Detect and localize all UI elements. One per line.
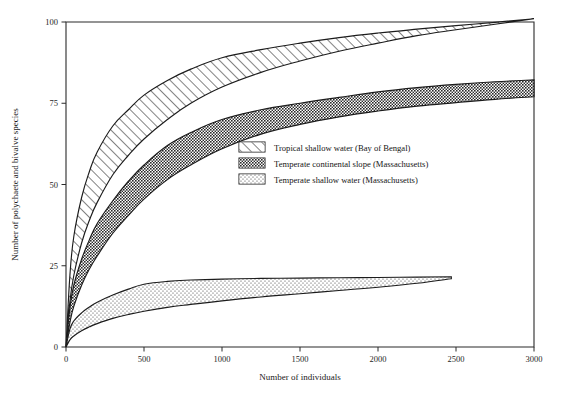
x-tick-label: 3000 bbox=[526, 354, 543, 364]
legend-swatch-fill bbox=[240, 159, 265, 168]
y-axis-title: Number of polychaete and bivalve species bbox=[10, 108, 20, 261]
y-tick-label: 25 bbox=[50, 261, 59, 271]
band-area bbox=[66, 277, 451, 347]
x-tick-label: 1500 bbox=[292, 354, 309, 364]
x-axis-ticks: 050010001500200025003000 bbox=[64, 347, 543, 364]
band-series-3 bbox=[66, 277, 451, 347]
legend-item-1: Tropical shallow water (Bay of Bengal) bbox=[239, 142, 411, 153]
legend-label: Temperate continental slope (Massachuset… bbox=[274, 159, 428, 169]
legend-item-3: Temperate shallow water (Massachusetts) bbox=[239, 174, 418, 185]
x-tick-label: 2500 bbox=[448, 354, 465, 364]
y-tick-label: 50 bbox=[50, 180, 59, 190]
x-tick-label: 2000 bbox=[370, 354, 387, 364]
y-axis-ticks: 0255075100 bbox=[45, 17, 66, 352]
legend-swatch-fill bbox=[240, 175, 265, 184]
legend-label: Temperate shallow water (Massachusetts) bbox=[274, 175, 418, 185]
legend-item-2: Temperate continental slope (Massachuset… bbox=[239, 158, 428, 169]
y-tick-label: 75 bbox=[50, 98, 59, 108]
x-tick-label: 1000 bbox=[214, 354, 231, 364]
x-axis-title: Number of individuals bbox=[259, 372, 341, 382]
legend-swatch-fill bbox=[240, 143, 265, 152]
y-tick-label: 0 bbox=[54, 342, 58, 352]
x-tick-label: 500 bbox=[138, 354, 151, 364]
x-tick-label: 0 bbox=[64, 354, 68, 364]
y-tick-label: 100 bbox=[45, 17, 58, 27]
chart-legend: Tropical shallow water (Bay of Bengal)Te… bbox=[239, 142, 428, 185]
chart-canvas: 050010001500200025003000 0255075100 Numb… bbox=[0, 0, 562, 394]
rarefaction-chart-figure: 050010001500200025003000 0255075100 Numb… bbox=[0, 0, 562, 394]
legend-label: Tropical shallow water (Bay of Bengal) bbox=[274, 143, 411, 153]
